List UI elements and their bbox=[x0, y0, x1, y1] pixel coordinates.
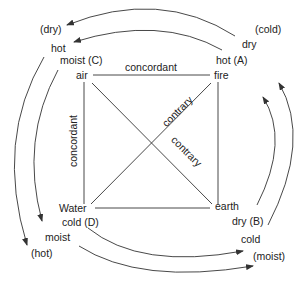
label-left-concordant: concordant bbox=[67, 115, 79, 167]
element-air: air bbox=[76, 70, 88, 81]
arc-label-dry-paren: (dry) bbox=[40, 24, 62, 35]
arc-top-inner bbox=[74, 30, 222, 50]
arc-right-inner bbox=[257, 97, 275, 205]
arc-left-inner bbox=[34, 70, 58, 221]
element-water: Water bbox=[59, 203, 87, 214]
arc-label-moist-paren: (moist) bbox=[253, 251, 285, 262]
arc-label-hot-paren: (hot) bbox=[31, 248, 53, 259]
quality-earth: dry (B) bbox=[232, 216, 264, 227]
arc-right-outer bbox=[268, 83, 293, 225]
quality-air: moist (C) bbox=[60, 55, 103, 66]
arc-left-outer bbox=[14, 57, 44, 245]
label-diag-up-contrary: contrary bbox=[160, 93, 196, 129]
element-fire: fire bbox=[214, 70, 229, 81]
arc-bottom-outer bbox=[79, 246, 253, 272]
label-diag-down-contrary: contrary bbox=[169, 134, 205, 170]
arc-label-dry: dry bbox=[242, 39, 257, 50]
quality-water: cold (D) bbox=[62, 217, 99, 228]
element-earth: earth bbox=[215, 201, 239, 212]
arc-label-cold-paren: (cold) bbox=[255, 24, 281, 35]
label-top-concordant: concordant bbox=[125, 62, 177, 73]
arc-bottom-inner bbox=[88, 228, 243, 257]
arc-top-outer bbox=[67, 9, 235, 36]
quality-fire: hot (A) bbox=[216, 55, 248, 66]
arc-label-cold: cold bbox=[241, 234, 260, 245]
diag-air-earth bbox=[92, 83, 212, 204]
arc-label-hot: hot bbox=[51, 43, 66, 54]
arc-label-moist: moist bbox=[45, 232, 70, 243]
